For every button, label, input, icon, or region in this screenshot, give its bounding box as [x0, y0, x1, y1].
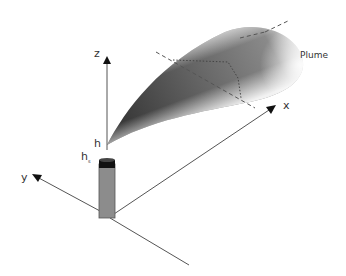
x-axis-label: x	[283, 100, 290, 111]
stack-height-subscript: s	[88, 158, 91, 164]
y-axis-arrow-icon	[32, 174, 42, 182]
plume-diagram: z x y h hs Plume	[0, 0, 346, 276]
diagram-canvas	[0, 0, 346, 276]
z-axis-arrow-icon	[103, 56, 111, 64]
stack-top-ellipse	[99, 158, 115, 162]
y-axis-label: y	[21, 172, 28, 183]
stack-height-main: h	[81, 150, 88, 163]
effective-height-label: h	[94, 138, 101, 149]
y-axis-line	[37, 177, 100, 211]
z-axis-label: z	[94, 48, 100, 59]
ground-line	[110, 218, 189, 265]
x-axis-arrow-icon	[266, 105, 276, 114]
plume-label: Plume	[300, 51, 328, 60]
stack-body	[99, 164, 115, 218]
plume-tip-fade	[107, 27, 303, 145]
stack-height-label: hs	[81, 151, 91, 164]
